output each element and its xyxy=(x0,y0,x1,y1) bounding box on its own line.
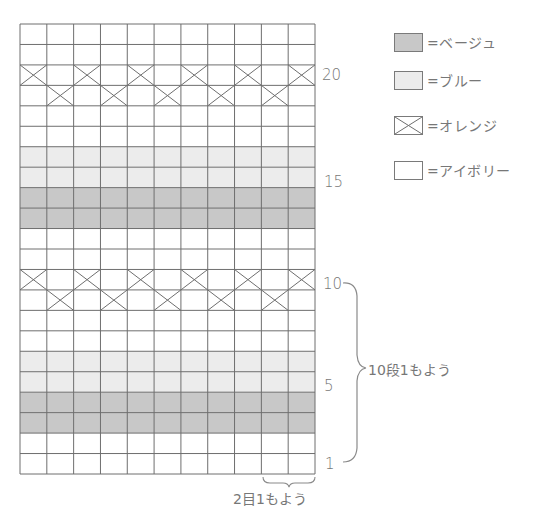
beige-swatch-icon xyxy=(394,33,423,52)
blue-swatch-icon xyxy=(394,71,423,90)
legend-item-beige: =ベージュ xyxy=(394,32,496,52)
row-label-5: 5 xyxy=(324,377,334,395)
chart-row-16 xyxy=(20,147,315,167)
chart-row-5 xyxy=(20,372,315,392)
legend-label-beige: =ベージュ xyxy=(427,32,496,52)
legend-label-ivory: =アイボリー xyxy=(427,160,511,180)
legend-item-orange: =オレンジ xyxy=(394,115,497,135)
stitch-repeat-label: 2目1もよう xyxy=(233,488,307,508)
chart-row-21 xyxy=(20,44,315,64)
chart-row-15 xyxy=(20,167,315,187)
row-label-15: 15 xyxy=(324,173,343,191)
legend-label-orange: =オレンジ xyxy=(427,115,497,135)
chart-row-7 xyxy=(20,331,315,351)
ivory-swatch-icon xyxy=(394,161,423,180)
legend-item-ivory: =アイボリー xyxy=(394,160,511,180)
row-label-10: 10 xyxy=(323,275,342,293)
chart-row-6 xyxy=(20,351,315,371)
chart-row-3 xyxy=(20,413,315,433)
chart-row-11 xyxy=(20,249,315,269)
legend-label-blue: =ブルー xyxy=(427,70,483,90)
row-repeat-brace xyxy=(343,283,366,462)
orange-cross-swatch-icon xyxy=(394,116,423,135)
chart-row-2 xyxy=(20,433,315,453)
chart-row-22 xyxy=(20,24,315,44)
chart-row-12 xyxy=(20,229,315,249)
chart-row-13 xyxy=(20,208,315,228)
chart-row-14 xyxy=(20,188,315,208)
row-label-20: 20 xyxy=(322,66,341,84)
chart-row-17 xyxy=(20,126,315,146)
chart-row-20 xyxy=(20,65,315,85)
row-repeat-label: 10段1もよう xyxy=(368,359,451,379)
stitch-repeat-brace xyxy=(263,477,315,487)
chart-row-8 xyxy=(20,310,315,330)
chart-row-18 xyxy=(20,106,315,126)
legend-item-blue: =ブルー xyxy=(394,70,483,90)
chart-row-10 xyxy=(20,269,315,289)
chart-row-4 xyxy=(20,392,315,412)
chart-row-1 xyxy=(20,454,315,474)
row-label-1: 1 xyxy=(325,455,335,473)
